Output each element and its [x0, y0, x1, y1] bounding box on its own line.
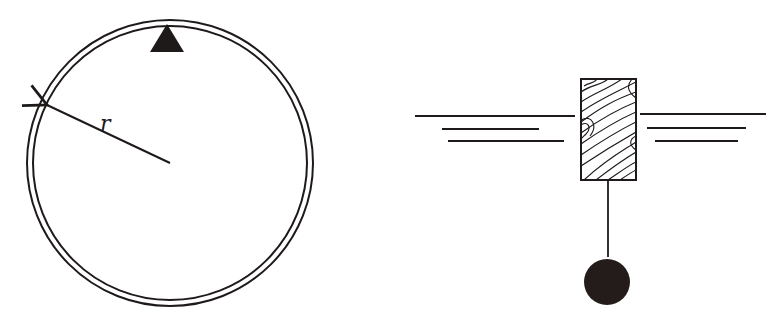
triangle-marker-icon [150, 24, 184, 52]
radius-label: r [100, 111, 112, 136]
ring-figure: r [27, 20, 313, 306]
float-figure [415, 79, 766, 305]
wooden-block [581, 79, 636, 180]
water-surface-right [640, 114, 766, 141]
weight-ball [584, 259, 630, 305]
water-surface-left [415, 116, 575, 141]
diagram-canvas: r [0, 0, 779, 329]
